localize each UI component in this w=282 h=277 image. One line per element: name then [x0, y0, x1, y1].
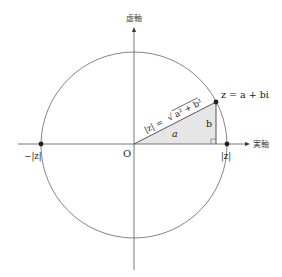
point-modulus-positive [225, 142, 230, 147]
imaginary-axis-arrow-icon [132, 27, 136, 32]
complex-plane-diagram: 虚軸 実軸 O z = a + bi a b |z| = √ a² + b² |… [0, 0, 282, 277]
real-axis-label: 実軸 [253, 139, 269, 149]
modulus-positive-label: |z| [221, 151, 231, 162]
modulus-negative-label: −|z| [24, 151, 41, 162]
point-z [214, 100, 219, 105]
height-b-label: b [206, 118, 212, 129]
base-a-label: a [172, 128, 178, 139]
origin-label: O [123, 148, 131, 159]
point-z-label: z = a + bi [221, 89, 269, 100]
real-axis-arrow-icon [245, 142, 250, 146]
point-modulus-negative [39, 142, 44, 147]
imaginary-axis-label: 虚軸 [126, 13, 142, 23]
